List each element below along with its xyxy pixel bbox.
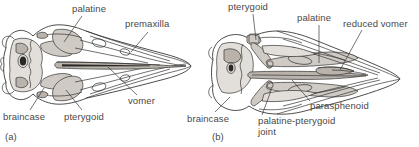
label-b-palatine: palatine (297, 13, 331, 24)
label-a-braincase: braincase (3, 112, 45, 123)
label-b-parasphenoid: parasphenoid (310, 101, 369, 112)
label-b-pterygoid: pterygoid (228, 2, 268, 13)
skull-b (209, 31, 400, 114)
label-b-reduced-vomer: reduced vomer (343, 19, 408, 30)
caption-b: (b) (212, 131, 224, 142)
caption-a: (a) (5, 131, 17, 142)
label-b-joint-line1: palatine-pterygoid (258, 116, 335, 127)
label-a-palatine: palatine (72, 4, 106, 15)
figure-canvas: palatine premaxilla vomer braincase pter… (0, 0, 419, 147)
skull-a (1, 25, 191, 104)
label-a-premaxilla: premaxilla (125, 19, 169, 30)
label-a-pterygoid: pterygoid (64, 112, 104, 123)
label-b-braincase: braincase (187, 114, 229, 125)
label-b-joint-line2: joint (258, 127, 276, 138)
label-a-vomer: vomer (128, 96, 155, 107)
